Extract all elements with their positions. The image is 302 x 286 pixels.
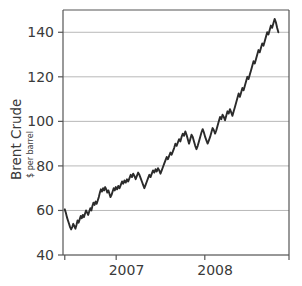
y-tick-label: 60: [36, 202, 54, 218]
brent-crude-line-chart: 406080100120140 20072008 Brent Crude $ p…: [0, 0, 302, 286]
chart-background: [0, 0, 302, 286]
y-axis-title: Brent Crude: [8, 99, 24, 180]
x-tick-label-year: 2007: [109, 262, 145, 278]
y-tick-label: 100: [27, 113, 54, 129]
y-tick-label: 80: [36, 158, 54, 174]
y-tick-label: 120: [27, 69, 54, 85]
chart-figure: 406080100120140 20072008 Brent Crude $ p…: [0, 0, 302, 286]
y-axis-subtitle: $ per barrel: [26, 131, 35, 178]
x-tick-label-year: 2008: [197, 262, 233, 278]
y-tick-label: 140: [27, 24, 54, 40]
y-tick-label: 40: [36, 247, 54, 263]
